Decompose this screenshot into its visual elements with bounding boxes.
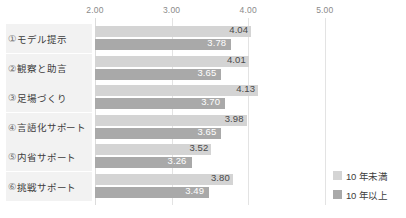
bar-value-label: 4.04: [229, 24, 248, 35]
bar-value-label: 3.70: [201, 96, 220, 107]
bar-value-label: 3.65: [197, 126, 216, 137]
category-label: ③足場づくり: [6, 83, 92, 112]
category-label: ④言語化サポート: [6, 113, 92, 142]
category-number-icon: ①: [8, 33, 16, 44]
bar-value-label: 4.13: [236, 83, 255, 94]
bar-series-1[interactable]: [95, 56, 249, 67]
category-number-icon: ⑤: [8, 151, 16, 162]
x-tick-label: 2.00: [86, 5, 103, 15]
bar-value-label: 3.78: [207, 37, 226, 48]
bar-series-1[interactable]: [95, 26, 251, 37]
grouped-bar-chart: 2.003.004.005.00 ①モデル提示4.043.78②観察と助言4.0…: [0, 0, 406, 218]
bar-series-1[interactable]: [95, 85, 258, 96]
bar-value-label: 4.01: [227, 54, 246, 65]
x-tick-label: 3.00: [163, 5, 180, 15]
category-label-text: 内省サポート: [17, 150, 76, 164]
legend-item-series-1[interactable]: 10 年未満: [333, 166, 406, 185]
category-number-icon: ③: [8, 92, 16, 103]
category-label-text: 言語化サポート: [17, 120, 86, 134]
category-label: ①モデル提示: [6, 24, 92, 53]
bar-row: ②観察と助言4.013.65: [0, 54, 406, 83]
category-label-text: 観察と助言: [17, 61, 66, 75]
legend-swatch-icon-series-1: [333, 171, 342, 180]
bar-value-label: 3.26: [168, 155, 187, 166]
legend-swatch-icon-series-2: [333, 190, 342, 199]
bar-value-label: 3.98: [225, 113, 244, 124]
category-label-text: モデル提示: [17, 32, 66, 46]
legend-label-series-2: 10 年以上: [346, 188, 388, 202]
bar-row: ③足場づくり4.133.70: [0, 83, 406, 112]
category-label-text: 足場づくり: [17, 91, 66, 105]
bar-value-label: 3.52: [189, 142, 208, 153]
legend-item-series-2[interactable]: 10 年以上: [333, 185, 406, 204]
x-tick-label: 5.00: [316, 5, 333, 15]
category-label: ②観察と助言: [6, 54, 92, 83]
bar-value-label: 3.49: [185, 185, 204, 196]
bar-row: ④言語化サポート3.983.65: [0, 113, 406, 142]
legend-label-series-1: 10 年未満: [346, 169, 388, 183]
category-label-text: 挑戦サポート: [17, 180, 76, 194]
category-label: ⑥挑戦サポート: [6, 172, 92, 201]
category-number-icon: ②: [8, 63, 16, 74]
bar-value-label: 3.80: [211, 172, 230, 183]
x-tick-label: 4.00: [240, 5, 257, 15]
chart-legend: 10 年未満 10 年以上: [333, 166, 406, 204]
bar-value-label: 3.65: [197, 67, 216, 78]
category-number-icon: ④: [8, 122, 16, 133]
category-label: ⑤内省サポート: [6, 142, 92, 171]
bar-row: ①モデル提示4.043.78: [0, 24, 406, 53]
category-number-icon: ⑥: [8, 181, 16, 192]
